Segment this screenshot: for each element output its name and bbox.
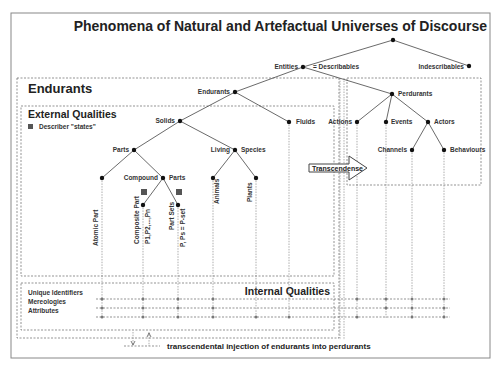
- node-solids: Solids: [155, 117, 175, 124]
- node-endurants: Endurants: [198, 88, 231, 95]
- node-part-sets-states: P, Ps = P-set: [179, 208, 187, 247]
- describer-square-icon: [176, 189, 182, 195]
- node-channels: Channels: [378, 146, 408, 153]
- row-mereologies: Mereologies: [28, 298, 66, 306]
- node-compound-parts: Parts: [169, 174, 186, 181]
- node-compound: Compound: [124, 174, 158, 182]
- row-attributes: Attributes: [28, 307, 59, 314]
- row-unique-identifiers: Unique Identifiers: [28, 289, 83, 297]
- external-qualities-heading: External Qualities: [28, 108, 117, 120]
- node-parts: Parts: [113, 146, 130, 153]
- page-title: Phenomena of Natural and Artefactual Uni…: [74, 18, 488, 34]
- node-describables: = Describables: [313, 63, 359, 70]
- footer-label: transcendental injection of endurants in…: [167, 342, 371, 351]
- ontology-diagram: Phenomena of Natural and Artefactual Uni…: [0, 0, 503, 367]
- describer-square-icon: [28, 124, 33, 129]
- node-actions: Actions: [328, 118, 352, 125]
- node-indescribables: Indescribables: [418, 63, 464, 70]
- node-actors: Actors: [434, 118, 455, 125]
- node-entities: Entities: [275, 63, 299, 70]
- node-animals: Animals: [213, 178, 220, 204]
- node-behaviours: Behaviours: [450, 146, 486, 153]
- node-living: Living: [211, 146, 230, 154]
- node-events: Events: [391, 118, 413, 125]
- node-species: Species: [241, 146, 266, 154]
- endurants-heading: Endurants: [28, 81, 92, 96]
- internal-qualities-heading: Internal Qualities: [245, 285, 330, 297]
- node-composite-part: Composite Part: [133, 195, 141, 244]
- node-perdurants: Perdurants: [398, 90, 433, 97]
- transcendense-label: Transcendense: [312, 165, 363, 172]
- describer-square-icon: [141, 189, 147, 195]
- node-composite-states: P1,P2,...,Pn: [144, 209, 152, 244]
- node-atomic-part: Atomic Part: [92, 209, 99, 246]
- node-plants: Plants: [246, 182, 253, 202]
- node-fluids: Fluids: [296, 118, 316, 125]
- node-part-sets: Part Sets: [168, 201, 175, 230]
- describer-legend: Describer "states": [39, 123, 96, 130]
